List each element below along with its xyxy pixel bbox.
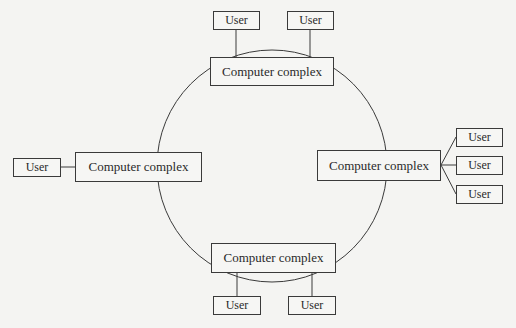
user-bottom-2: User [288,296,336,315]
computer-complex-bottom: Computer complex [211,243,336,273]
link-right-user-3 [441,165,456,194]
user-right-3: User [456,185,503,204]
user-right-1: User [456,128,503,147]
user-left-1: User [13,158,61,177]
computer-complex-left: Computer complex [75,152,202,182]
user-right-2: User [456,156,503,175]
user-top-2: User [287,11,334,30]
user-bottom-1: User [213,296,261,315]
user-top-1: User [213,11,260,30]
link-right-user-1 [441,137,456,165]
computer-complex-top: Computer complex [210,57,334,86]
computer-complex-right: Computer complex [317,150,441,181]
